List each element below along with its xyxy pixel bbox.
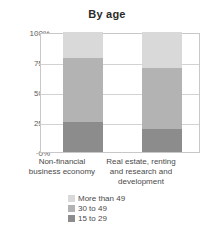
category-label-line: and research and [98,167,184,177]
bar-segment [63,122,103,152]
legend-swatch-icon [68,195,75,202]
bar-1 [142,32,182,152]
legend-label: 30 to 49 [78,204,107,213]
legend-item[interactable]: More than 49 [68,194,146,203]
bar-segment [63,32,103,58]
chart-container: By age 100%75%50%25%0% Non-financialbusi… [0,0,214,232]
bar-segment [142,32,182,68]
category-label-line: development [98,177,184,187]
category-label-line: Real estate, renting [98,157,184,167]
bar-0 [63,32,103,152]
legend-label: 15 to 29 [78,214,107,223]
legend-item[interactable]: 15 to 29 [68,214,146,223]
category-label: Non-financialbusiness economy [19,157,105,177]
legend-swatch-icon [68,205,75,212]
legend-item[interactable]: 30 to 49 [68,204,146,213]
bar-segment [142,68,182,129]
category-label-line: business economy [19,167,105,177]
chart-legend: More than 4930 to 4915 to 29 [0,194,214,223]
y-axis-tick-mark [36,153,40,154]
bar-segment [63,58,103,122]
bar-segment [142,129,182,152]
plot-area [40,33,200,153]
legend-label: More than 49 [78,194,125,203]
legend-swatch-icon [68,215,75,222]
category-label: Real estate, rentingand research anddeve… [98,157,184,187]
chart-title: By age [0,8,214,20]
category-label-line: Non-financial [19,157,105,167]
